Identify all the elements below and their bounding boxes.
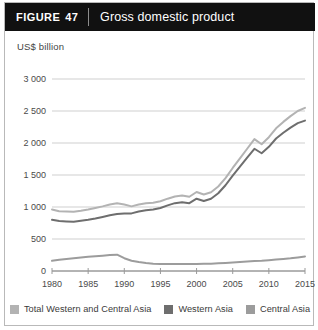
legend-label: Central Asia xyxy=(260,304,310,314)
svg-text:0: 0 xyxy=(41,266,46,276)
legend-entry[interactable]: Central Asia xyxy=(246,304,310,314)
series-line xyxy=(52,108,305,212)
x-tick-labels: 19801985199019952000200520102015 xyxy=(42,279,315,289)
series-line xyxy=(52,255,305,264)
figure-tag-number: 47 xyxy=(65,11,78,23)
svg-text:1995: 1995 xyxy=(150,279,170,289)
svg-text:2005: 2005 xyxy=(223,279,243,289)
figure-header-bar: FIGURE 47 Gross domestic product xyxy=(5,3,315,31)
figure-title: Gross domestic product xyxy=(89,10,234,24)
chart-plot-area: US$ billion 3 0002 5002 0001 5001 000500… xyxy=(5,31,315,293)
legend-swatch-western xyxy=(164,305,173,314)
figure-tag-word: FIGURE xyxy=(16,11,60,23)
svg-text:2 500: 2 500 xyxy=(23,106,46,116)
legend-swatch-central xyxy=(246,305,255,314)
line-chart-svg: 3 0002 5002 0001 5001 0005000 1980198519… xyxy=(5,31,315,293)
figure-inner-frame: FIGURE 47 Gross domestic product US$ bil… xyxy=(4,2,314,326)
legend-label: Western Asia xyxy=(178,304,233,314)
svg-text:1985: 1985 xyxy=(78,279,98,289)
figure-tag: FIGURE 47 xyxy=(5,11,88,23)
svg-text:500: 500 xyxy=(31,234,46,244)
svg-text:2010: 2010 xyxy=(259,279,279,289)
svg-text:1 000: 1 000 xyxy=(23,202,46,212)
svg-text:2015: 2015 xyxy=(295,279,315,289)
legend-label: Total Western and Central Asia xyxy=(24,304,151,314)
figure-card: FIGURE 47 Gross domestic product US$ bil… xyxy=(0,0,318,330)
gridlines xyxy=(52,79,305,271)
legend-swatch-total xyxy=(10,305,19,314)
chart-legend: Total Western and Central AsiaWestern As… xyxy=(5,293,315,325)
data-series-lines xyxy=(52,108,305,264)
legend-entry[interactable]: Western Asia xyxy=(164,304,233,314)
x-axis xyxy=(52,268,305,274)
svg-text:1980: 1980 xyxy=(42,279,62,289)
y-tick-labels: 3 0002 5002 0001 5001 0005000 xyxy=(23,74,46,276)
svg-text:2 000: 2 000 xyxy=(23,138,46,148)
svg-text:3 000: 3 000 xyxy=(23,74,46,84)
svg-text:2000: 2000 xyxy=(187,279,207,289)
svg-text:1 500: 1 500 xyxy=(23,170,46,180)
legend-entry[interactable]: Total Western and Central Asia xyxy=(10,304,151,314)
svg-text:1990: 1990 xyxy=(114,279,134,289)
